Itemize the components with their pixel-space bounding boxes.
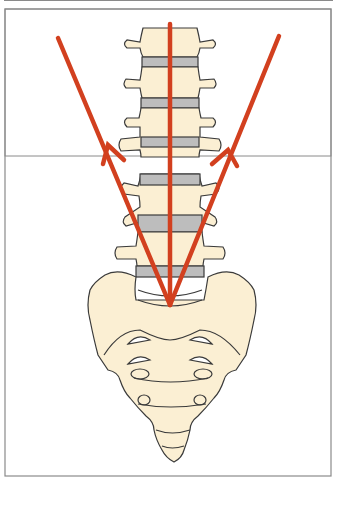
- spine-diagram: [0, 0, 343, 507]
- arrows: [58, 24, 279, 305]
